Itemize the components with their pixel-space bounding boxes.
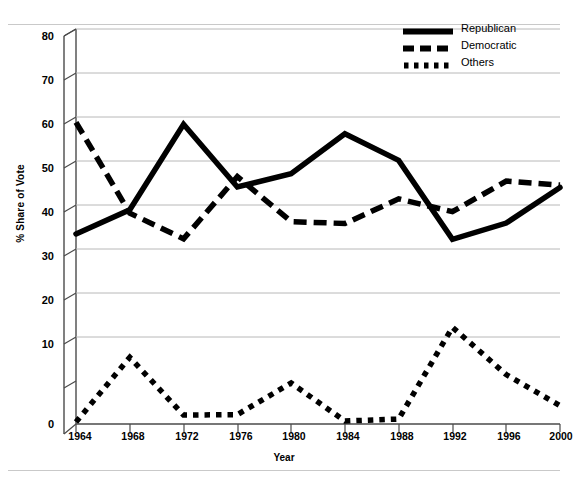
x-tick-label: 1968 [110,430,156,442]
data-series-layer [76,122,560,422]
x-tick-label: 1964 [57,430,103,442]
y-tick-label: 0 [24,418,54,430]
y-tick-label: 70 [24,74,54,86]
dashed-line-swatch [402,40,454,51]
y-tick-label: 60 [24,118,54,130]
y-tick-label: 20 [24,294,54,306]
y-tick-label: 30 [24,250,54,262]
legend-item-republican[interactable]: Republican [402,20,552,36]
x-tick-label: 1972 [164,430,210,442]
dotted-line-swatch [402,57,454,68]
y-tick-label: 10 [24,338,54,350]
y-tick-label: 40 [24,206,54,218]
series-line-others [76,327,560,422]
x-axis-title: Year [0,452,568,463]
legend-item-democratic[interactable]: Democratic [402,37,552,53]
x-tick-label: 1992 [432,430,478,442]
chart-legend: Republican Democratic Others [402,20,552,70]
y-tick-marks [64,29,76,388]
legend-label: Republican [461,23,516,34]
y-tick-label: 80 [24,30,54,42]
solid-line-swatch [402,23,454,34]
legend-label: Democratic [461,40,517,51]
x-tick-label: 1984 [325,430,371,442]
x-tick-label: 1988 [379,430,425,442]
legend-label: Others [461,57,494,68]
y-tick-label: 50 [24,162,54,174]
y-axis-title: % Share of Vote [15,144,26,264]
x-tick-label: 1976 [218,430,264,442]
x-tick-label: 1980 [271,430,317,442]
x-tick-label: 2000 [538,430,577,442]
legend-item-others[interactable]: Others [402,54,552,70]
x-tick-label: 1996 [486,430,532,442]
